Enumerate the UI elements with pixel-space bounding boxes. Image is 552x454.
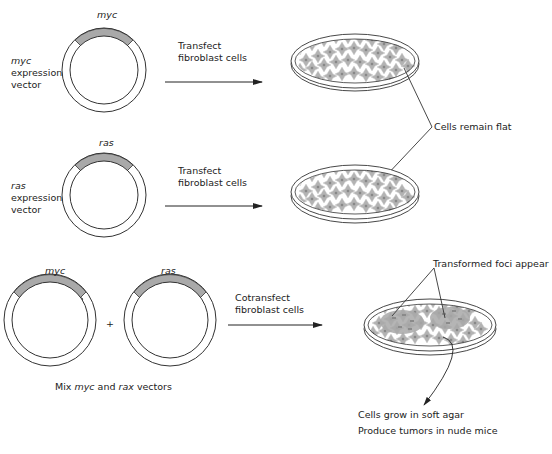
transfect-2-l1: Transfect <box>178 165 247 177</box>
myc-vector-l2: expression <box>11 67 62 79</box>
ras-vector-l2: expression <box>11 192 62 204</box>
outcome-l2: Produce tumors in nude mice <box>358 425 497 437</box>
mix-gene1: myc <box>74 381 94 392</box>
transformed-foci-label: Transformed foci appear <box>433 258 549 270</box>
petri-dish-flat-1 <box>291 30 419 91</box>
ras-mix-plasmid-label: ras <box>161 265 176 277</box>
ras-vector-gene: ras <box>11 180 62 192</box>
transfect-1-l2: fibroblast cells <box>178 52 247 64</box>
ras-vector-l3: vector <box>11 204 62 216</box>
mix-suffix: vectors <box>134 381 172 392</box>
cotransfect-l2: fibroblast cells <box>235 304 304 316</box>
petri-dish-foci <box>364 293 496 355</box>
mix-mid: and <box>95 381 119 392</box>
petri-dish-flat-2 <box>291 161 419 223</box>
myc-mix-plasmid-label: myc <box>45 265 65 277</box>
ras-plasmid-label: ras <box>99 137 114 149</box>
myc-plasmid-label: myc <box>97 9 117 21</box>
cotransfect-l1: Cotransfect <box>235 292 304 304</box>
myc-vector-label: myc expression vector <box>11 55 62 91</box>
mix-gene2: rax <box>119 381 134 392</box>
mix-prefix: Mix <box>55 381 74 392</box>
outcome-l1: Cells grow in soft agar <box>358 409 497 421</box>
cotransfect-label: Cotransfect fibroblast cells <box>235 292 304 316</box>
mix-vectors-caption: Mix myc and rax vectors <box>55 381 172 393</box>
ras-plasmid <box>62 153 146 237</box>
ras-vector-label: ras expression vector <box>11 180 62 216</box>
plus-sign: + <box>106 318 114 330</box>
transfect-1-l1: Transfect <box>178 40 247 52</box>
cells-remain-flat-label: Cells remain flat <box>434 121 512 133</box>
transfect-label-2: Transfect fibroblast cells <box>178 165 247 189</box>
myc-vector-l3: vector <box>11 79 62 91</box>
transfect-label-1: Transfect fibroblast cells <box>178 40 247 64</box>
myc-plasmid <box>62 28 146 112</box>
myc-vector-gene: myc <box>11 55 62 67</box>
transfect-2-l2: fibroblast cells <box>178 177 247 189</box>
myc-plasmid-mix <box>4 274 96 366</box>
ras-plasmid-mix <box>124 274 216 366</box>
outcome-label: Cells grow in soft agar Produce tumors i… <box>358 409 497 437</box>
